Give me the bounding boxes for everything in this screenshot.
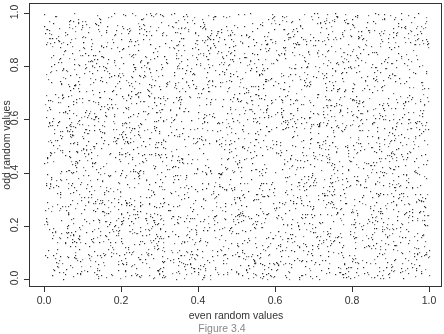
y-tick xyxy=(24,173,29,174)
x-tick-label: 0.6 xyxy=(268,294,283,306)
y-tick xyxy=(24,66,29,67)
y-tick-label: 1.0 xyxy=(4,6,24,18)
x-tick-label: 0.8 xyxy=(345,294,360,306)
x-tick xyxy=(198,287,199,292)
y-tick-label: 0.8 xyxy=(4,59,24,71)
y-axis-title: odd random values xyxy=(0,100,12,189)
y-tick xyxy=(24,119,29,120)
x-tick xyxy=(44,287,45,292)
y-tick-label: 0.2 xyxy=(4,219,24,231)
x-tick xyxy=(275,287,276,292)
x-tick xyxy=(352,287,353,292)
x-axis-title: even random values xyxy=(189,309,284,321)
y-tick xyxy=(24,226,29,227)
x-tick-label: 1.0 xyxy=(422,294,437,306)
y-tick-label: 0.0 xyxy=(4,272,24,284)
x-tick-label: 0.2 xyxy=(114,294,129,306)
y-tick xyxy=(24,279,29,280)
x-tick-label: 0.4 xyxy=(191,294,206,306)
x-tick xyxy=(429,287,430,292)
x-tick-label: 0.0 xyxy=(37,294,52,306)
x-tick xyxy=(121,287,122,292)
figure-caption: Figure 3.4 xyxy=(198,322,245,334)
y-tick xyxy=(24,13,29,14)
